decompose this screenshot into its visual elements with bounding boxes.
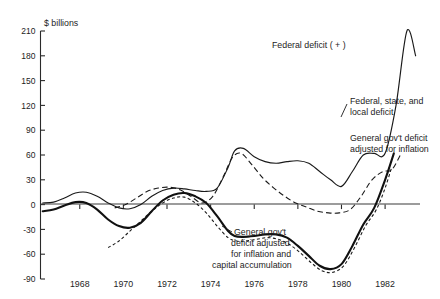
- leader-fsl: [341, 104, 347, 117]
- annotation-federal-deficit: Federal deficit ( + ): [272, 40, 346, 50]
- chart-canvas: $ billions 2101801501209060300-30-60-90 …: [0, 0, 440, 299]
- series-line-thick-solid: Federal, state, and local deficit: [43, 153, 394, 269]
- y-tick-label--30: -30: [23, 225, 36, 235]
- annotation-federal-deficit-line-0: Federal deficit ( + ): [272, 40, 346, 50]
- y-tick-label--60: -60: [23, 249, 36, 259]
- y-axis-ticks: 2101801501209060300-30-60-90: [21, 26, 45, 284]
- annotation-gov-capital-line-2: for inflation and: [231, 249, 291, 259]
- x-tick-label-1978: 1978: [288, 279, 308, 289]
- x-tick-label-1980: 1980: [332, 279, 352, 289]
- annotation-gov-inflation-line-1: adjusted for inflation: [350, 144, 429, 154]
- series-line-thin-solid: Federal deficit ( + ): [43, 30, 416, 209]
- y-tick-label-180: 180: [21, 51, 35, 61]
- y-tick-label-0: 0: [31, 200, 36, 210]
- x-tick-label-1982: 1982: [375, 279, 395, 289]
- annotation-gov-inflation-line-0: General gov't deficit: [350, 133, 428, 143]
- y-axis-unit-label: $ billions: [44, 18, 79, 28]
- y-tick-label-150: 150: [21, 76, 35, 86]
- y-tick-label-30: 30: [26, 175, 36, 185]
- x-axis-labels: 19681970197219741976197819801982: [70, 279, 395, 289]
- annotation-gov-capital-line-1: deficit adjusted: [231, 238, 290, 248]
- x-tick-label-1972: 1972: [157, 279, 177, 289]
- x-tick-label-1968: 1968: [70, 279, 90, 289]
- annotation-fsl-deficit-line-1: local deficit: [350, 107, 394, 117]
- annotation-gov-capital-line-0: General gov't: [234, 227, 287, 237]
- annotation-gov-inflation: General gov't deficit adjusted for infla…: [350, 133, 429, 154]
- x-tick-label-1976: 1976: [244, 279, 264, 289]
- y-tick-label-90: 90: [26, 125, 36, 135]
- annotation-gov-capital-line-3: capital accumulation: [212, 260, 292, 270]
- x-tick-label-1974: 1974: [201, 279, 221, 289]
- deficit-line-chart: $ billions 2101801501209060300-30-60-90 …: [0, 0, 440, 299]
- y-tick-label-210: 210: [21, 26, 35, 36]
- x-tick-label-1970: 1970: [114, 279, 134, 289]
- annotation-fsl-deficit: Federal, state, and local deficit: [350, 96, 423, 117]
- y-tick-label-60: 60: [26, 150, 36, 160]
- y-tick-label-120: 120: [21, 101, 35, 111]
- y-tick-label--90: -90: [23, 274, 36, 284]
- annotation-fsl-deficit-line-0: Federal, state, and: [350, 96, 423, 106]
